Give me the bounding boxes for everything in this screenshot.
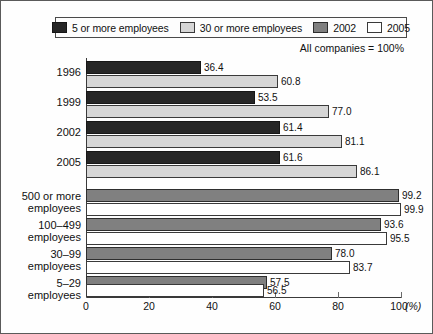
bar-30-99-2005 [86, 261, 350, 274]
catlabel-line2: employees [28, 202, 81, 214]
bar-100-499-2005 [86, 232, 387, 245]
chart-frame: 5 or more employees 30 or more employees… [0, 0, 433, 334]
category-label-500-or-more-employees: 500 or more employees [7, 191, 81, 214]
x-ticklabel-0: 0 [83, 300, 89, 312]
bar-1999-30-or-more [86, 105, 329, 118]
bar-2005-30-or-more [86, 165, 357, 178]
barvalue-500-or-more-2002: 99.2 [402, 190, 421, 201]
legend-swatch-dark [52, 22, 67, 33]
catlabel-line1: 500 or more [22, 190, 81, 202]
x-axis-line [86, 297, 402, 298]
catlabel-line2: employees [28, 289, 81, 301]
barvalue-100-499-2002: 93.6 [384, 219, 403, 230]
legend-swatch-lightgray [180, 22, 195, 33]
category-label-30-99-employees: 30–99 employees [7, 249, 81, 272]
bar-500-or-more-2005 [86, 203, 401, 216]
barvalue-2002-5-or-more: 61.4 [283, 122, 302, 133]
barvalue-5-29-2005: 56.5 [267, 285, 286, 296]
barvalue-500-or-more-2005: 99.9 [404, 204, 423, 215]
barvalue-30-99-2005: 83.7 [353, 262, 372, 273]
x-ticklabel-60: 60 [269, 300, 281, 312]
legend-label-2: 2002 [333, 22, 356, 34]
catlabel-line1: 5–29 [57, 277, 81, 289]
x-ticklabel-80: 80 [332, 300, 344, 312]
category-label-2002: 2002 [21, 127, 81, 139]
category-label-5-29-employees: 5–29 employees [7, 278, 81, 301]
barvalue-2005-30-or-more: 86.1 [360, 166, 379, 177]
bar-500-or-more-2002 [86, 189, 399, 202]
catlabel-line2: employees [28, 231, 81, 243]
chart-annotation: All companies = 100% [300, 42, 404, 54]
barvalue-100-499-2005: 95.5 [390, 233, 409, 244]
chart-legend: 5 or more employees 30 or more employees… [55, 17, 407, 38]
bar-2002-30-or-more [86, 135, 342, 148]
bar-1999-5-or-more [86, 91, 255, 104]
barvalue-30-99-2002: 78.0 [335, 248, 354, 259]
barvalue-1999-5-or-more: 53.5 [258, 92, 277, 103]
category-label-1996: 1996 [21, 67, 81, 79]
x-ticklabel-20: 20 [143, 300, 155, 312]
barvalue-1996-30-or-more: 60.8 [281, 76, 300, 87]
catlabel-line2: employees [28, 260, 81, 272]
legend-swatch-white [367, 22, 382, 33]
legend-item-2002: 2002 [313, 22, 367, 34]
category-label-1999: 1999 [21, 97, 81, 109]
bar-2002-5-or-more [86, 121, 280, 134]
bar-100-499-2002 [86, 218, 381, 231]
legend-item-5-or-more-employees: 5 or more employees [52, 22, 180, 34]
catlabel-line1: 30–99 [50, 248, 81, 260]
bar-2005-5-or-more [86, 151, 280, 164]
barvalue-2005-5-or-more: 61.6 [283, 152, 302, 163]
x-tick-100 [401, 292, 402, 298]
barvalue-1996-5-or-more: 36.4 [204, 62, 223, 73]
x-axis-unit-label: (%) [405, 300, 421, 312]
x-tick-80 [338, 292, 339, 298]
bar-1996-30-or-more [86, 75, 278, 88]
category-label-2005: 2005 [21, 157, 81, 169]
legend-label-0: 5 or more employees [72, 22, 169, 34]
legend-swatch-midgray [313, 22, 328, 33]
barvalue-2002-30-or-more: 81.1 [345, 136, 364, 147]
legend-label-3: 2005 [387, 22, 410, 34]
barvalue-1999-30-or-more: 77.0 [332, 106, 351, 117]
category-label-100-499-employees: 100–499 employees [7, 220, 81, 243]
legend-item-2005: 2005 [367, 22, 410, 34]
catlabel-line1: 100–499 [38, 219, 81, 231]
bar-5-29-2005 [86, 284, 264, 297]
legend-item-30-or-more-employees: 30 or more employees [180, 22, 313, 34]
legend-label-1: 30 or more employees [200, 22, 302, 34]
x-ticklabel-40: 40 [206, 300, 218, 312]
bar-1996-5-or-more [86, 61, 201, 74]
bar-30-99-2002 [86, 247, 332, 260]
